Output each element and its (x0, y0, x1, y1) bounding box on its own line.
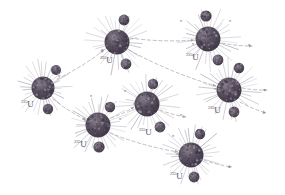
speckle (226, 93, 228, 95)
speckle (234, 89, 236, 91)
spike (75, 107, 89, 118)
speckle (128, 19, 129, 20)
speckle (209, 48, 211, 50)
spike (210, 50, 212, 61)
speckle (227, 86, 229, 88)
speckle (208, 36, 209, 37)
speckle (229, 93, 232, 96)
speckle (163, 126, 164, 127)
speckle (146, 106, 148, 108)
fission-fragment (189, 172, 200, 183)
spike (219, 69, 224, 80)
speckle (149, 95, 152, 98)
speckle (124, 36, 127, 39)
speckle (198, 146, 199, 147)
speckle (201, 135, 203, 137)
speckle (180, 156, 181, 157)
spike (156, 85, 173, 97)
speckle (153, 84, 154, 85)
spike (93, 44, 106, 47)
spike (202, 152, 219, 154)
speckle (216, 60, 218, 62)
speckle (198, 44, 199, 45)
speckle (50, 90, 52, 92)
speckle (192, 160, 194, 162)
spike (41, 62, 42, 78)
speckle (232, 100, 233, 101)
speckle (50, 107, 51, 108)
speckle (240, 63, 242, 65)
speckle (110, 110, 112, 112)
speckle (56, 66, 57, 67)
speckle (237, 114, 238, 115)
neutron-label: n (58, 74, 60, 78)
speckle (204, 35, 206, 37)
spike (105, 16, 112, 32)
speckle (109, 107, 110, 108)
spike (118, 53, 119, 70)
speckle (191, 156, 192, 157)
spike (127, 31, 147, 38)
speckle (197, 176, 198, 177)
speckle (215, 34, 218, 37)
spike (188, 129, 190, 145)
speckle (95, 145, 96, 146)
speckle (52, 69, 54, 71)
neutron-label: n (180, 19, 182, 23)
speckle (96, 125, 99, 128)
speckle (125, 45, 127, 47)
speckle (94, 127, 96, 129)
speckle (105, 131, 107, 133)
speckle (92, 128, 94, 130)
speckle (230, 85, 232, 87)
speckle (187, 163, 188, 164)
speckle (203, 49, 205, 51)
speckle (197, 137, 198, 138)
spike (201, 158, 219, 164)
speckle (189, 163, 191, 165)
speckle (109, 105, 110, 106)
speckle (47, 80, 50, 83)
spike (218, 44, 231, 51)
speckle (195, 176, 196, 177)
spike (18, 81, 33, 85)
speckle (102, 134, 104, 136)
speckle (40, 78, 42, 80)
speckle (125, 58, 127, 60)
speckle (185, 163, 187, 165)
speckle (120, 18, 121, 19)
spike (146, 75, 147, 94)
speckle (226, 99, 228, 101)
spike (23, 89, 33, 90)
speckle (97, 144, 99, 146)
speckle (216, 39, 217, 40)
speckle (56, 67, 57, 68)
speckle (41, 97, 42, 98)
speckle (209, 38, 210, 39)
speckle (38, 80, 40, 82)
spike (38, 98, 41, 115)
speckle (40, 89, 41, 90)
speckle (237, 83, 239, 85)
neutron-label: n (228, 165, 230, 169)
speckle (239, 89, 240, 90)
speckle (201, 16, 203, 18)
speckle (154, 84, 156, 86)
speckle (39, 90, 41, 92)
speckle (146, 104, 148, 106)
speckle (209, 14, 210, 15)
speckle (230, 82, 231, 83)
speckle (200, 159, 202, 161)
neutron-label: n (229, 19, 231, 23)
speckle (108, 104, 109, 105)
speckle (231, 91, 233, 93)
speckle (96, 123, 97, 124)
speckle (197, 133, 198, 134)
speckle (214, 59, 216, 61)
speckle (44, 84, 46, 86)
speckle (191, 163, 193, 165)
speckle (118, 48, 121, 51)
speckle (145, 109, 147, 111)
speckle (235, 83, 237, 85)
speckle (206, 29, 208, 31)
